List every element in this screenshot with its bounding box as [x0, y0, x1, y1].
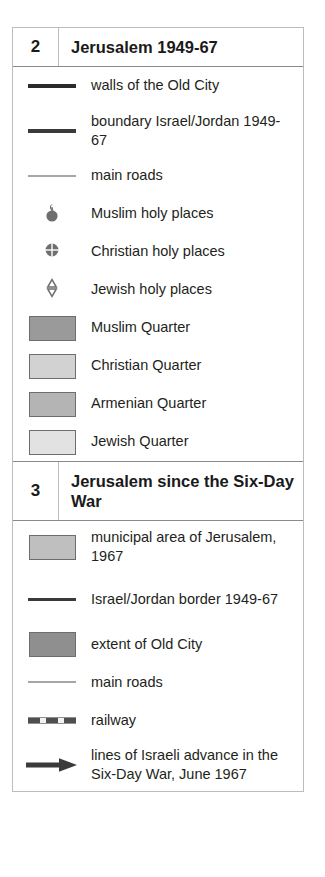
legend-symbol [13, 701, 91, 739]
legend-symbol [13, 423, 91, 461]
legend-label: extent of Old City [91, 625, 303, 663]
color-swatch-icon [29, 535, 76, 560]
legend-label: railway [91, 701, 303, 739]
legend-entry: main roads [13, 157, 303, 195]
legend-label: Jewish Quarter [91, 423, 303, 461]
legend-section-header-3: 3Jerusalem since the Six-Day War [13, 461, 303, 521]
legend-entry: walls of the Old City [13, 67, 303, 105]
color-swatch-icon [29, 316, 76, 341]
arrow-icon [26, 757, 78, 773]
legend-label: Muslim Quarter [91, 309, 303, 347]
jewish-holy-place-icon [42, 278, 62, 302]
color-swatch-icon [29, 392, 76, 417]
legend-entry: Muslim holy places [13, 195, 303, 233]
legend-label: boundary Israel/Jordan 1949-67 [91, 105, 303, 157]
legend-entries-3: municipal area of Jerusalem, 1967Israel/… [13, 521, 303, 791]
legend-entry: Jewish Quarter [13, 423, 303, 461]
christian-holy-place-icon [42, 240, 62, 264]
legend-entry: lines of Israeli advance in the Six-Day … [13, 739, 303, 791]
legend-label: Muslim holy places [91, 195, 303, 233]
legend-label: Jewish holy places [91, 271, 303, 309]
legend-label: main roads [91, 157, 303, 195]
color-swatch-icon [29, 430, 76, 455]
legend-symbol [13, 739, 91, 791]
legend-entry: main roads [13, 663, 303, 701]
legend-symbol [13, 105, 91, 157]
thin-line-icon [28, 175, 76, 177]
legend-label: municipal area of Jerusalem, 1967 [91, 521, 303, 573]
legend-label: Christian Quarter [91, 347, 303, 385]
legend-entry: Israel/Jordan border 1949-67 [13, 573, 303, 625]
section-number: 2 [13, 28, 59, 66]
color-swatch-icon [29, 354, 76, 379]
legend-symbol [13, 347, 91, 385]
legend-entry: Christian holy places [13, 233, 303, 271]
legend-symbol [13, 271, 91, 309]
railway-icon [28, 717, 76, 724]
color-swatch-icon [29, 632, 76, 657]
legend-symbol [13, 233, 91, 271]
legend-label: Christian holy places [91, 233, 303, 271]
legend-symbol [13, 521, 91, 573]
section-number: 3 [13, 462, 59, 520]
legend-entry: Armenian Quarter [13, 385, 303, 423]
legend-symbol [13, 157, 91, 195]
legend-symbol [13, 195, 91, 233]
legend-symbol [13, 309, 91, 347]
legend-entries-2: walls of the Old Cityboundary Israel/Jor… [13, 67, 303, 461]
thick-line-icon [28, 84, 76, 88]
section-title: Jerusalem since the Six-Day War [59, 462, 303, 520]
legend-label: walls of the Old City [91, 67, 303, 105]
medium-line-icon [28, 598, 76, 602]
map-legend-panel: 2Jerusalem 1949-67walls of the Old Cityb… [12, 27, 304, 792]
legend-symbol [13, 67, 91, 105]
legend-label: lines of Israeli advance in the Six-Day … [91, 739, 303, 791]
legend-entry: Jewish holy places [13, 271, 303, 309]
legend-section-header-2: 2Jerusalem 1949-67 [13, 28, 303, 67]
legend-label: Israel/Jordan border 1949-67 [91, 573, 303, 625]
legend-entry: boundary Israel/Jordan 1949-67 [13, 105, 303, 157]
legend-symbol [13, 573, 91, 625]
legend-label: main roads [91, 663, 303, 701]
legend-symbol [13, 625, 91, 663]
medium-line-icon [28, 129, 76, 133]
muslim-holy-place-icon [41, 201, 63, 227]
legend-symbol [13, 385, 91, 423]
legend-label: Armenian Quarter [91, 385, 303, 423]
thin-line-icon [28, 681, 76, 683]
section-title: Jerusalem 1949-67 [59, 28, 303, 66]
legend-entry: railway [13, 701, 303, 739]
legend-symbol [13, 663, 91, 701]
legend-entry: extent of Old City [13, 625, 303, 663]
legend-entry: Muslim Quarter [13, 309, 303, 347]
legend-entry: Christian Quarter [13, 347, 303, 385]
legend-entry: municipal area of Jerusalem, 1967 [13, 521, 303, 573]
